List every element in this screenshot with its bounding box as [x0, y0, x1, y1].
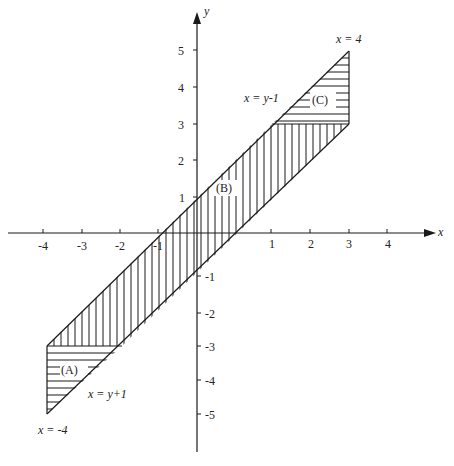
x-tick-label: 2 [308, 238, 314, 250]
y-tick-label: -1 [205, 271, 215, 283]
y-tick-label: -3 [205, 341, 215, 353]
upper-line-label: x = y-1 [244, 92, 279, 104]
y-tick-label: 5 [178, 45, 184, 57]
diagram-figure: y x -4 -3 -2 -1 1 2 3 4 5 4 3 2 1 -1 -2 … [0, 0, 454, 466]
y-axis-arrow-icon [193, 12, 201, 24]
x-tick-label: -2 [115, 240, 125, 252]
y-tick-label: -2 [205, 308, 215, 320]
lower-line-label: x = y+1 [88, 388, 127, 400]
right-bound-label: x = 4 [336, 33, 361, 45]
x-tick-label: 1 [269, 238, 275, 250]
region-a-label: (A) [61, 364, 78, 376]
x-tick-label: 4 [385, 238, 391, 250]
y-axis-label: y [204, 5, 209, 17]
diagram-canvas [0, 0, 454, 466]
line-x-eq-y-minus-1 [47, 51, 349, 346]
y-tick-label: 4 [178, 82, 184, 94]
x-tick-label: 3 [346, 238, 352, 250]
x-tick-label: -4 [38, 240, 48, 252]
region-b-label: (B) [216, 182, 232, 194]
region-c-label: (C) [312, 94, 328, 106]
y-tick-label: 1 [179, 192, 185, 204]
line-x-eq-y-plus-1 [47, 124, 349, 414]
y-tick-label: -4 [205, 375, 215, 387]
y-tick-label: 3 [178, 119, 184, 131]
x-axis-label: x [438, 226, 443, 238]
x-axis-arrow-icon [424, 229, 436, 237]
left-bound-label: x = -4 [38, 424, 67, 436]
x-tick-label: -3 [77, 240, 87, 252]
y-tick-label: 2 [178, 155, 184, 167]
x-tick-label: -1 [153, 240, 163, 252]
y-tick-label: -5 [205, 409, 215, 421]
axes [8, 20, 428, 452]
